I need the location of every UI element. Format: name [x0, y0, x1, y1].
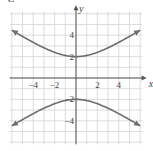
x-axis-arrow-icon — [142, 76, 147, 81]
x-tick-label: −4 — [28, 80, 38, 90]
x-axis-label: x — [148, 78, 153, 89]
y-axis-label: y — [78, 3, 84, 14]
y-tick-label: 4 — [70, 30, 75, 40]
x-tick-label: 4 — [117, 80, 122, 90]
x-tick-label: 2 — [95, 80, 100, 90]
x-tick-label: −2 — [50, 80, 60, 90]
y-tick-label: −4 — [64, 116, 74, 126]
y-axis-arrow-icon — [74, 5, 79, 10]
hyperbola-chart: xy−4−22442−2−4 — [0, 0, 153, 151]
